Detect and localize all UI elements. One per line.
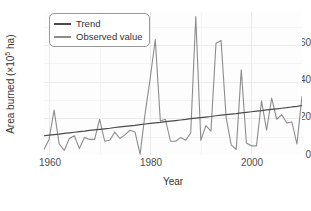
legend-label-observed-value: Observed value [76, 31, 143, 42]
y-axis-label: Area burned (×105 ha) [4, 14, 16, 154]
legend-color-key-observed-value [54, 36, 71, 38]
x-axis-tick-1960: 1960 [27, 158, 73, 168]
series-line-trend [44, 106, 302, 136]
legend-color-key-trend [54, 23, 71, 25]
legend-label-trend: Trend [76, 18, 100, 29]
x-axis-label: Year [44, 176, 302, 187]
x-axis-tick-2000: 2000 [229, 158, 275, 168]
x-axis-tick-1980: 1980 [128, 158, 174, 168]
legend-item-trend[interactable]: Trend [54, 17, 143, 30]
y-axis-label-suffix: ha) [5, 35, 16, 52]
y-axis-label-prefix: Area burned (×10 [5, 56, 16, 134]
chart-figure: Area burned (×105 ha) 0 20 40 60 1960 19… [0, 0, 311, 211]
y-axis-label-container: Area burned (×105 ha) [0, 0, 14, 211]
legend-item-observed-value[interactable]: Observed value [54, 30, 143, 43]
chart-legend: Trend Observed value [49, 13, 150, 47]
y-axis-label-exponent: 5 [4, 52, 11, 56]
